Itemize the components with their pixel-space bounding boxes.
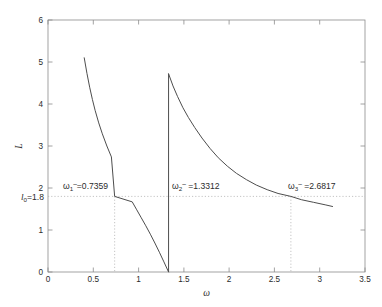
figure-background bbox=[0, 0, 382, 307]
y-tick-label-0: 0 bbox=[38, 268, 43, 277]
y-tick-label-6: 6 bbox=[38, 16, 43, 25]
annotation-omega-1-value: =0.7359 bbox=[77, 181, 109, 191]
y-tick-label-4: 4 bbox=[38, 100, 43, 109]
y-axis-title: L bbox=[14, 143, 24, 149]
x-tick-label-4: 2 bbox=[227, 275, 232, 284]
annotation-omega-2-value: =1.3312 bbox=[186, 181, 220, 191]
x-tick-label-3: 1.5 bbox=[178, 275, 190, 284]
chart-plot: 0 0.5 1 1.5 2 2.5 3 3.5 0 1 2 3 4 5 6 ω … bbox=[0, 0, 382, 307]
x-tick-label-0: 0 bbox=[46, 275, 51, 284]
y-tick-label-5: 5 bbox=[38, 58, 43, 67]
y-tick-label-3: 3 bbox=[38, 142, 43, 151]
y-tick-label-1: 1 bbox=[38, 226, 43, 235]
x-tick-label-7: 3.5 bbox=[359, 275, 371, 284]
x-tick-label-2: 1 bbox=[136, 275, 141, 284]
annotation-omega-3-value: =2.6817 bbox=[302, 181, 336, 191]
figure-container: 0 0.5 1 1.5 2 2.5 3 3.5 0 1 2 3 4 5 6 ω … bbox=[0, 0, 382, 307]
x-axis-title: ω bbox=[203, 288, 210, 298]
x-tick-label-5: 2.5 bbox=[269, 275, 281, 284]
x-tick-label-6: 3 bbox=[317, 275, 322, 284]
x-tick-label-1: 0.5 bbox=[88, 275, 100, 284]
threshold-label-suffix: =1.8 bbox=[27, 192, 44, 202]
